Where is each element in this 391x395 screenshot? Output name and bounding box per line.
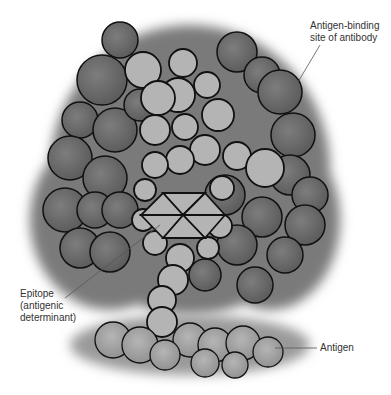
label-epitope-line3: determinant) <box>20 312 76 324</box>
label-epitope-line2: (antigenic <box>20 300 76 312</box>
binding-site-leader <box>298 45 320 82</box>
label-binding-site: Antigen-binding site of antibody <box>310 20 380 44</box>
label-antigen-line1: Antigen <box>320 342 354 354</box>
label-epitope: Epitope (antigenic determinant) <box>20 288 76 324</box>
label-binding-site-line2: site of antibody <box>310 32 380 44</box>
antibody-antigen-diagram <box>0 0 391 395</box>
label-antigen: Antigen <box>320 342 354 354</box>
label-binding-site-line1: Antigen-binding <box>310 20 380 32</box>
label-epitope-line1: Epitope <box>20 288 76 300</box>
